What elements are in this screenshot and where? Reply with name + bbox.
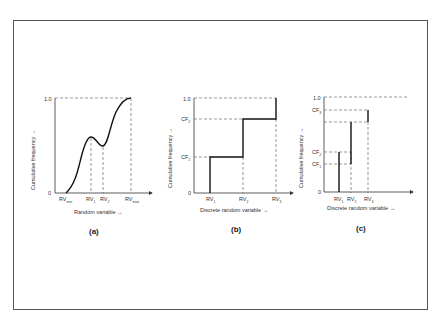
panel-c-tick-rv2: RV2: [347, 196, 357, 204]
panel-b-x-label: Discrete random variable →: [200, 207, 268, 213]
panel-b-y1-label: 1.0: [183, 96, 191, 102]
panel-a-tick-rvmax: RVmax: [125, 196, 139, 204]
panel-c-guides: [324, 97, 409, 193]
panel-b-y0-label: 0: [188, 190, 191, 196]
panel-c-caption: (c): [356, 224, 366, 233]
panel-c-cf1-label: CF1: [312, 161, 321, 169]
panel-c-tick-rv3: RV3: [364, 196, 374, 204]
panel-c-y0-label: 0: [318, 189, 321, 195]
panel-b-cf1-label: CF1: [181, 154, 190, 162]
panel-a-tick-rv2: RV2: [100, 196, 110, 204]
panel-a-y-label: Cumulative frequency →: [30, 130, 36, 190]
panel-a-y0-label: 0: [48, 190, 51, 196]
panel-c-cf2-label: CF2: [312, 149, 321, 157]
panel-a-tick-rvmin: RVmin: [59, 196, 72, 204]
panel-c-y-label: Cumulative frequency →: [298, 128, 304, 188]
panel-a-tick-rv1: RV1: [86, 196, 96, 204]
panel-c-tick-rv1: RV1: [334, 196, 344, 204]
panel-b-y-label: Cumulative frequency →: [167, 128, 173, 188]
panel-c-y1-label: 1.0: [313, 95, 321, 101]
panel-a-y1-label: 1.0: [44, 96, 52, 102]
panel-a-caption: (a): [89, 227, 99, 236]
panel-b-tick-rv1: RV1: [206, 196, 216, 204]
panel-b-cf2-label: CF2: [181, 116, 190, 124]
panel-b-guides: [194, 98, 276, 193]
panel-b-caption: (b): [231, 225, 242, 234]
panel-a-guides: [55, 98, 131, 193]
panel-b: 1.0 CF2 CF1 0 RV1 RV2 RV3 Discrete rando…: [167, 96, 293, 235]
panel-b-tick-rv3: RV3: [272, 196, 282, 204]
panel-a-x-label: Random variable →: [74, 209, 123, 215]
panel-b-tick-rv2: RV2: [239, 196, 249, 204]
panel-c-x-label: Discrete random variable →: [327, 205, 395, 211]
panel-c: 1.0 CF3 CF2 CF1 0 RV1 RV2 RV3 Discrete r…: [298, 95, 413, 234]
panel-a-cdf-curve: [66, 98, 131, 193]
panel-c-segments: [339, 110, 368, 192]
panel-a: 1.0 0 RVmin RV1 RV2 RVmax Random variabl…: [30, 96, 152, 237]
panel-c-cf3-label: CF3: [312, 107, 321, 115]
figure-canvas: 1.0 0 RVmin RV1 RV2 RVmax Random variabl…: [0, 0, 442, 323]
